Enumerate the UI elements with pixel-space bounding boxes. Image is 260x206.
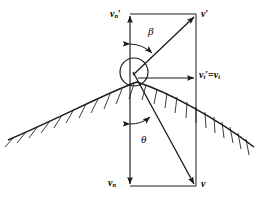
label-tangential: vt′=vt: [199, 70, 220, 81]
diagram-canvas: [0, 0, 260, 206]
label-velocity-out: v′: [201, 9, 208, 19]
label-velocity-in: v: [201, 179, 205, 189]
theta-angle-arc: [130, 117, 150, 124]
label-velocity-in-base: v: [201, 178, 205, 189]
label-normal-out-prime: ′: [118, 8, 121, 19]
label-velocity-out-prime: ′: [205, 8, 208, 19]
label-tangential-sub2: t: [218, 73, 220, 80]
label-normal-in: vn: [108, 178, 116, 189]
velocity-decomposition-diagram: vn′ v′ vt′=vt vn v β θ: [0, 0, 260, 206]
label-normal-in-sub: n: [112, 181, 116, 188]
beta-angle-arc: [130, 44, 152, 53]
ball-circle: [120, 58, 148, 86]
component-rectangle: [130, 14, 196, 186]
incident-velocity-arrow: [133, 72, 194, 184]
label-theta-angle: θ: [141, 134, 146, 145]
rebound-velocity-arrow: [133, 17, 194, 75]
label-beta-angle: β: [148, 26, 153, 37]
label-normal-out: vn′: [110, 9, 121, 20]
